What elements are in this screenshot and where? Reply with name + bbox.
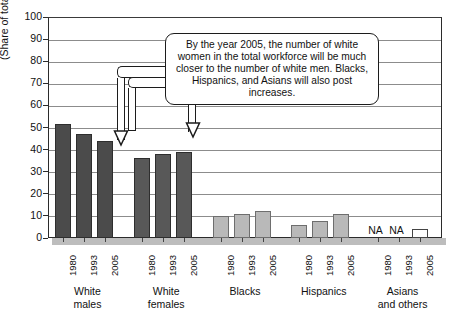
group-label-line1: Blacks	[230, 285, 261, 297]
x-tick-label: 1993	[324, 255, 335, 276]
callout-annotation: By the year 2005, the number of white wo…	[165, 33, 379, 105]
x-tick-label: 1993	[403, 255, 414, 276]
bar	[333, 214, 349, 238]
x-tick-mark	[142, 238, 143, 242]
y-tick-label: 60	[2, 99, 42, 109]
group-label-line2: males	[73, 298, 101, 310]
bar	[155, 154, 171, 238]
x-tick-mark	[242, 238, 243, 242]
x-tick-mark	[341, 238, 342, 242]
y-tick-label: 70	[2, 77, 42, 87]
bar	[76, 134, 92, 238]
x-axis-group-labels: WhitemalesWhitefemalesBlacksHispanicsAsi…	[48, 285, 442, 319]
group-label-line1: Hispanics	[301, 285, 347, 297]
y-tick-label: 20	[2, 188, 42, 198]
y-tick-label: 0	[2, 232, 42, 242]
bar	[312, 221, 328, 238]
callout-text: By the year 2005, the number of white wo…	[173, 39, 371, 99]
bar	[134, 158, 150, 238]
bar	[234, 214, 250, 238]
x-tick-mark	[263, 238, 264, 242]
x-group-label: Whitefemales	[121, 285, 212, 311]
x-tick-label: 1980	[67, 255, 78, 276]
x-group-label: Asiansand others	[357, 285, 448, 311]
x-tick-mark	[163, 238, 164, 242]
x-tick-mark	[184, 238, 185, 242]
x-group-label: Hispanics	[278, 285, 369, 298]
x-tick-label: 2005	[424, 255, 435, 276]
x-tick-label: 2005	[345, 255, 356, 276]
x-tick-mark	[299, 238, 300, 242]
x-tick-mark	[84, 238, 85, 242]
y-tick-label: 90	[2, 33, 42, 43]
x-tick-label: 2005	[188, 255, 199, 276]
x-axis-tick-labels: 1980199320051980199320051980199320051980…	[48, 242, 442, 282]
y-axis-title: (Share of total workers)	[0, 0, 10, 60]
x-tick-mark	[105, 238, 106, 242]
x-tick-label: 1980	[303, 255, 314, 276]
x-tick-mark	[320, 238, 321, 242]
group-label-line2: females	[148, 298, 185, 310]
x-tick-label: 1993	[246, 255, 257, 276]
group-label-line1: White	[74, 285, 101, 297]
bar-chart: (Share of total workers) 100908070605040…	[0, 0, 460, 320]
group-label-line1: White	[153, 285, 180, 297]
na-label: NA	[389, 224, 404, 236]
x-group-label: Blacks	[200, 285, 291, 298]
na-label: NA	[368, 224, 383, 236]
y-tick-label: 80	[2, 55, 42, 65]
x-tick-mark	[378, 238, 379, 242]
x-tick-label: 1993	[88, 255, 99, 276]
x-tick-label: 1980	[225, 255, 236, 276]
x-tick-mark	[399, 238, 400, 242]
y-tick-label: 10	[2, 210, 42, 220]
x-tick-label: 1993	[167, 255, 178, 276]
bar	[213, 216, 229, 238]
y-tick-label: 30	[2, 166, 42, 176]
x-tick-mark	[420, 238, 421, 242]
y-tick-label: 100	[2, 11, 42, 21]
bar	[255, 211, 271, 238]
x-tick-label: 1980	[146, 255, 157, 276]
bar	[55, 124, 71, 238]
group-label-line1: Asians	[387, 285, 419, 297]
x-tick-mark	[63, 238, 64, 242]
bar	[412, 229, 428, 238]
bar	[97, 141, 113, 238]
y-tick-label: 50	[2, 122, 42, 132]
y-tick-label: 40	[2, 144, 42, 154]
bar	[291, 225, 307, 238]
x-tick-label: 1980	[382, 255, 393, 276]
x-tick-label: 2005	[109, 255, 120, 276]
group-label-line2: and others	[378, 298, 428, 310]
bar	[176, 152, 192, 238]
x-tick-label: 2005	[267, 255, 278, 276]
x-group-label: Whitemales	[42, 285, 133, 311]
x-tick-mark	[221, 238, 222, 242]
